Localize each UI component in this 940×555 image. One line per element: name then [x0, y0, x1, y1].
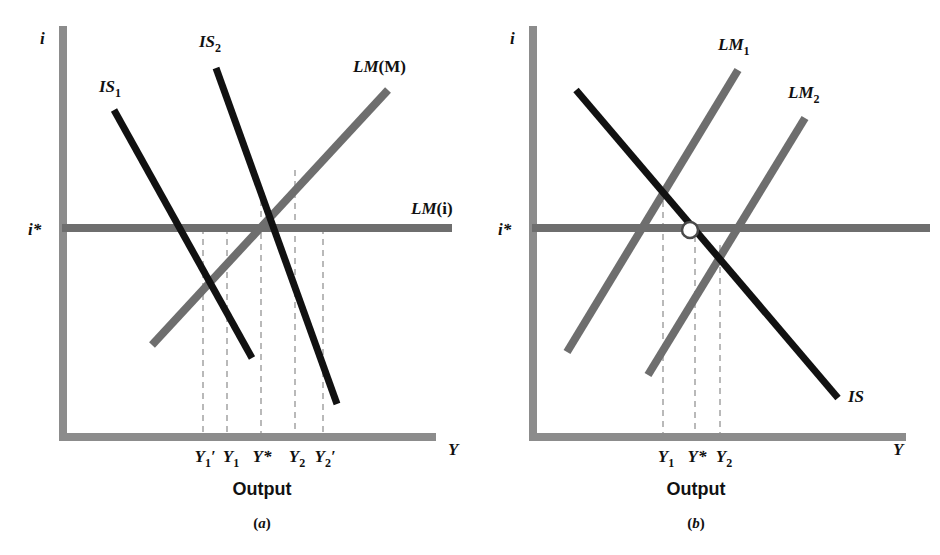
- x-axis-label-a: Y: [448, 440, 460, 459]
- x-caption-a: Output: [233, 479, 292, 499]
- tick-label-Y1-a: Y1: [223, 447, 239, 470]
- tick-label-Y1-b: Y1: [658, 447, 674, 470]
- label-is1-a: IS1: [98, 77, 121, 100]
- y-axis-a: [59, 26, 67, 440]
- curve-is1-a: [114, 110, 252, 358]
- label-lm-m-a: LM(M): [352, 57, 406, 76]
- panel-letter-a: (a): [253, 515, 271, 532]
- tick-label-Y1prime-a: Y1′: [195, 447, 216, 470]
- label-lm1-b: LM1: [717, 35, 750, 58]
- tick-label-Y2-a: Y2: [289, 447, 305, 470]
- tick-label-Ystar-a: Y*: [253, 447, 272, 466]
- label-is2-a: IS2: [198, 32, 221, 55]
- i-star-label-b: i*: [498, 220, 512, 239]
- label-lm2-b: LM2: [787, 83, 820, 106]
- panel-letter-b: (b): [687, 515, 705, 532]
- panel-b-axes: [529, 26, 906, 441]
- i-star-label-a: i*: [28, 220, 42, 239]
- tick-label-Ystar-b: Y*: [688, 447, 707, 466]
- label-is-b: IS: [847, 387, 864, 406]
- tick-label-Y2-b: Y2: [716, 447, 732, 470]
- y-axis-label-b: i: [510, 29, 515, 48]
- y-axis-label-a: i: [40, 29, 45, 48]
- figure-container: IS1 IS2 LM(M) LM(i) i Y i* Y1′ Y1 Y* Y2 …: [0, 0, 940, 555]
- curve-is2-a: [216, 68, 337, 404]
- y-axis-b: [529, 26, 537, 440]
- label-lm-i-a: LM(i): [410, 199, 453, 218]
- x-axis-label-b: Y: [893, 440, 905, 459]
- x-axis-b: [529, 433, 906, 441]
- curve-is-b: [576, 90, 838, 398]
- equilibrium-point-marker: [682, 222, 698, 238]
- tick-label-Y2prime-a: Y2′: [315, 447, 336, 470]
- panel-a: IS1 IS2 LM(M) LM(i) i Y i* Y1′ Y1 Y* Y2 …: [0, 0, 470, 555]
- x-axis-a: [59, 433, 436, 441]
- panel-b: LM1 LM2 IS i Y i* Y1 Y* Y2 Output (b): [470, 0, 940, 555]
- x-caption-b: Output: [667, 479, 726, 499]
